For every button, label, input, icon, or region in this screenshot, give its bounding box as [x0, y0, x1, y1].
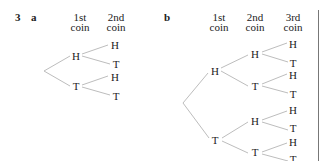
header-line: coin [240, 22, 270, 32]
branch-a-root-h [44, 56, 70, 71]
tree-branches [0, 0, 322, 161]
node-b-l2-t: T [252, 81, 259, 92]
branch-b-th-h [262, 111, 287, 120]
branch-b-hh-h [262, 43, 287, 52]
node-a-l1-t: T [73, 81, 80, 92]
header-b-2nd-coin: 2nd coin [240, 12, 270, 32]
node-b-l2-h: H [251, 49, 259, 60]
header-b-3rd-coin: 3rd coin [278, 12, 308, 32]
header-a-2nd-coin: 2nd coin [101, 12, 131, 32]
node-b-l3-t: T [290, 89, 297, 100]
node-b-l2-t: T [252, 147, 259, 158]
branch-b-tt-t [262, 154, 288, 161]
branch-b-hh-t [262, 54, 288, 62]
part-a-label: a [31, 12, 37, 23]
node-b-l3-h: H [289, 39, 297, 50]
branch-a-t-t [82, 87, 110, 95]
branch-a-h-t [82, 56, 110, 64]
branch-b-ht-h [262, 74, 287, 84]
node-b-l3-t: T [290, 58, 297, 69]
part-b-label: b [164, 12, 170, 23]
node-a-l2-h: H [111, 40, 119, 51]
node-b-l3-h: H [289, 105, 297, 116]
branch-b-h-t [221, 71, 248, 86]
node-a-l2-h: H [111, 72, 119, 83]
node-a-l1-h: H [72, 51, 80, 62]
node-b-l1-h: H [211, 66, 219, 77]
header-line: coin [204, 22, 234, 32]
header-b-1st-coin: 1st coin [204, 12, 234, 32]
branch-b-root-h [183, 73, 208, 103]
branch-a-root-t [44, 71, 70, 86]
node-b-l3-h: H [289, 137, 297, 148]
node-b-l3-t: T [290, 154, 297, 162]
header-line: coin [65, 22, 95, 32]
header-a-1st-coin: 1st coin [65, 12, 95, 32]
header-line: coin [278, 22, 308, 32]
branch-b-tt-h [262, 143, 287, 152]
node-b-l3-h: H [289, 70, 297, 81]
branch-b-th-t [262, 122, 288, 130]
branch-a-t-h [82, 76, 108, 85]
node-b-l1-t: T [212, 135, 219, 146]
branch-b-h-h [221, 55, 248, 68]
branch-b-root-t [183, 103, 209, 138]
question-number: 3 [15, 12, 21, 23]
branch-b-ht-t [262, 86, 288, 93]
column-divider [318, 10, 319, 161]
node-b-l2-h: H [251, 116, 259, 127]
header-line: coin [101, 22, 131, 32]
node-b-l3-t: T [290, 123, 297, 134]
node-a-l2-t: T [113, 91, 120, 102]
branch-b-t-h [222, 122, 248, 138]
branch-a-h-h [82, 45, 108, 54]
branch-b-t-t [222, 141, 248, 153]
node-a-l2-t: T [113, 59, 120, 70]
